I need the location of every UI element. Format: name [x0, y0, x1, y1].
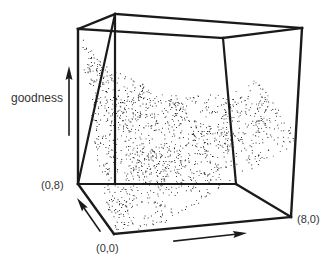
box-edge-right-vertical [291, 28, 302, 217]
y-axis-arrow-head-icon [77, 198, 88, 211]
goodness-axis-label: goodness [11, 92, 63, 104]
box-edge-right-bottom-depth [236, 184, 291, 217]
corner-label-8-0: (8,0) [297, 214, 320, 225]
surface-plot-canvas [0, 0, 334, 269]
box-edge-top-back [115, 14, 302, 28]
box-edge-back-left-vertical [78, 14, 115, 184]
box-edge-top-left-depth [78, 14, 115, 29]
box-edge-inner-right-vertical [223, 38, 236, 184]
corner-label-origin: (0,0) [96, 243, 119, 254]
goodness-arrow-head-icon [66, 66, 73, 80]
box-edge-top-right-depth [223, 28, 302, 38]
corner-label-0-8: (0,8) [41, 180, 64, 191]
bounding-box-front-edges [78, 14, 302, 234]
x-axis-arrow-shaft [174, 234, 237, 241]
surface-plot-figure: goodness (0,8) (0,0) (8,0) [0, 0, 334, 269]
box-edge-top-front [78, 29, 223, 38]
bounding-box-back-edges [78, 14, 291, 217]
